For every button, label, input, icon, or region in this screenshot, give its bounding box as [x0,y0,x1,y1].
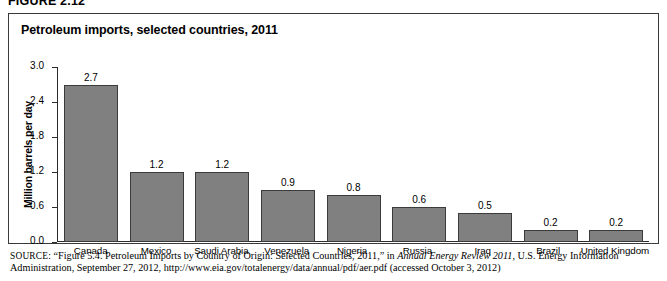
bar-value-label: 0.6 [412,194,426,205]
bar-slot: 0.9 [255,67,321,242]
bar-slot: 1.2 [189,67,255,242]
bar-slot: 0.8 [321,67,387,242]
y-axis-tick-label: 2.4 [30,95,44,106]
source-italic-title: Annual Energy Review 2011 [397,250,512,261]
bar-value-label: 0.5 [478,200,492,211]
y-axis-tick: 1.2 [52,172,57,173]
bar: 0.5 [458,213,512,242]
source-text-before: “Figure 5.4. Petroleum Imports by Countr… [51,250,397,261]
bar-value-label: 0.9 [281,177,295,188]
chart-title: Petroleum imports, selected countries, 2… [21,23,278,37]
source-prefix: SOURCE: [10,251,51,261]
y-axis-tick-label: 1.8 [30,130,44,141]
y-axis-tick-label: 1.2 [30,165,44,176]
y-axis-tick-label: 0.6 [30,200,44,211]
bar: 1.2 [130,172,184,242]
y-axis-tick-label: 3.0 [30,60,44,71]
bar-value-label: 1.2 [150,159,164,170]
bar-value-label: 0.2 [544,217,558,228]
bar: 0.9 [261,190,315,243]
bar-slot: 0.2 [583,67,649,242]
y-axis-tick: 0.6 [52,207,57,208]
y-axis-tick: 1.8 [52,137,57,138]
bar: 0.8 [327,195,381,242]
bar-series: 2.71.21.20.90.80.60.50.20.2 [58,67,649,242]
bar: 0.2 [589,230,643,242]
y-axis-tick: 2.4 [52,102,57,103]
bar-slot: 2.7 [58,67,124,242]
bar-value-label: 0.2 [609,217,623,228]
figure-number-label: FIGURE 2.12 [8,0,85,8]
bar-slot: 0.5 [452,67,518,242]
bar-value-label: 0.8 [347,182,361,193]
bar: 2.7 [64,85,118,243]
figure-page: FIGURE 2.12 Petroleum imports, selected … [0,0,667,281]
y-axis-tick-label: 0.0 [30,235,44,246]
source-note: SOURCE: “Figure 5.4. Petroleum Imports b… [10,250,660,275]
y-axis-tick: 0.0 [52,242,57,243]
bar: 1.2 [195,172,249,242]
y-axis-title: Million barrels per day [21,67,35,242]
bar-slot: 0.2 [518,67,584,242]
y-axis-tick: 3.0 [52,67,57,68]
bar-value-label: 2.7 [84,72,98,83]
bar-slot: 0.6 [386,67,452,242]
bar: 0.2 [524,230,578,242]
plot-area: 3.02.41.81.20.60.0 2.71.21.20.90.80.60.5… [57,67,649,242]
bar-slot: 1.2 [124,67,190,242]
bar: 0.6 [392,207,446,242]
figure-frame: Petroleum imports, selected countries, 2… [8,13,659,244]
bar-value-label: 1.2 [215,159,229,170]
